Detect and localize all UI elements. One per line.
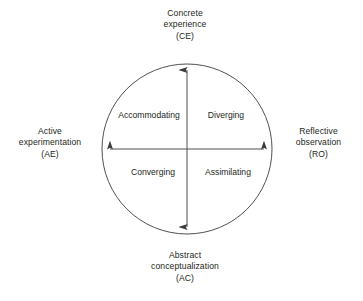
kolb-learning-styles-diagram: Concrete experience (CE) Abstract concep… [0, 0, 363, 301]
axis-pole-label-reflective-observation: Reflective observation (RO) [274, 126, 363, 160]
quadrant-label-assimilating: Assimilating [193, 167, 263, 178]
quadrant-label-diverging: Diverging [196, 110, 256, 121]
axis-pole-label-active-experimentation: Active experimentation (AE) [0, 126, 100, 160]
quadrant-label-accommodating: Accommodating [110, 110, 188, 121]
quadrant-label-converging: Converging [120, 167, 186, 178]
axis-pole-label-abstract-conceptualization: Abstract conceptualization (AC) [107, 250, 263, 284]
axis-pole-label-concrete-experience: Concrete experience (CE) [110, 8, 260, 42]
